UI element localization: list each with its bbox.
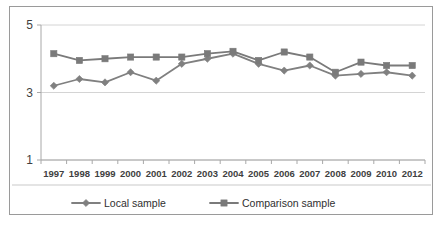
data-point-1-2005 bbox=[256, 57, 262, 63]
data-series bbox=[50, 48, 416, 89]
axes bbox=[37, 25, 425, 164]
data-point-1-2003 bbox=[204, 51, 210, 57]
x-tick-label-2001: 2001 bbox=[146, 168, 168, 179]
x-tick-label-1997: 1997 bbox=[43, 168, 64, 179]
y-tick-label-1: 1 bbox=[26, 153, 33, 167]
y-tick-label-5: 5 bbox=[26, 18, 33, 32]
x-axis-tick-labels: 1997199819992000200120022003200420052006… bbox=[43, 168, 423, 179]
chart-legend[interactable]: Local sampleComparison sample bbox=[12, 185, 431, 209]
x-tick-label-2009: 2009 bbox=[350, 168, 371, 179]
x-tick-label-2010: 2010 bbox=[376, 168, 397, 179]
x-tick-label-1999: 1999 bbox=[94, 168, 115, 179]
x-tick-label-2004: 2004 bbox=[222, 168, 244, 179]
legend-item-comparison-sample[interactable]: Comparison sample bbox=[210, 197, 336, 209]
data-point-1-2010 bbox=[384, 62, 390, 68]
chart-container: 135 199719981999200020012002200320042005… bbox=[0, 0, 444, 227]
legend-label-0: Local sample bbox=[104, 197, 166, 209]
data-point-0-1999 bbox=[101, 79, 108, 86]
data-point-0-1998 bbox=[76, 75, 83, 82]
data-point-1-1998 bbox=[76, 57, 82, 63]
data-point-1-2012 bbox=[409, 62, 415, 68]
y-tick-label-3: 3 bbox=[26, 86, 33, 100]
y-axis-tick-labels: 135 bbox=[26, 18, 33, 167]
data-point-1-1999 bbox=[102, 56, 108, 62]
x-tick-label-2003: 2003 bbox=[197, 168, 218, 179]
legend-marker-square-icon bbox=[221, 200, 227, 206]
line-chart: 135 199719981999200020012002200320042005… bbox=[0, 0, 444, 227]
gridlines bbox=[41, 25, 425, 160]
data-point-1-1997 bbox=[51, 51, 57, 57]
x-tick-label-2005: 2005 bbox=[248, 168, 270, 179]
legend-item-local-sample[interactable]: Local sample bbox=[72, 197, 166, 209]
data-point-1-2007 bbox=[307, 54, 313, 60]
data-point-1-2004 bbox=[230, 48, 236, 54]
data-point-0-2006 bbox=[281, 67, 288, 74]
x-tick-label-2006: 2006 bbox=[274, 168, 295, 179]
data-point-1-2006 bbox=[281, 49, 287, 55]
data-point-1-2000 bbox=[128, 54, 134, 60]
x-tick-label-1998: 1998 bbox=[69, 168, 90, 179]
data-point-0-2009 bbox=[357, 70, 364, 77]
x-tick-label-2002: 2002 bbox=[171, 168, 192, 179]
data-point-0-2010 bbox=[383, 69, 390, 76]
data-point-1-2002 bbox=[179, 54, 185, 60]
x-tick-label-2008: 2008 bbox=[325, 168, 346, 179]
legend-marker-diamond-icon bbox=[82, 199, 89, 206]
x-tick-label-2000: 2000 bbox=[120, 168, 141, 179]
data-point-1-2001 bbox=[153, 54, 159, 60]
x-tick-label-2012: 2012 bbox=[402, 168, 423, 179]
data-point-1-2009 bbox=[358, 59, 364, 65]
data-point-1-2008 bbox=[332, 69, 338, 75]
data-point-0-2000 bbox=[127, 69, 134, 76]
x-tick-label-2007: 2007 bbox=[299, 168, 320, 179]
data-point-0-2007 bbox=[306, 62, 313, 69]
data-point-0-1997 bbox=[50, 82, 57, 89]
legend-label-1: Comparison sample bbox=[242, 197, 336, 209]
data-point-0-2012 bbox=[409, 72, 416, 79]
